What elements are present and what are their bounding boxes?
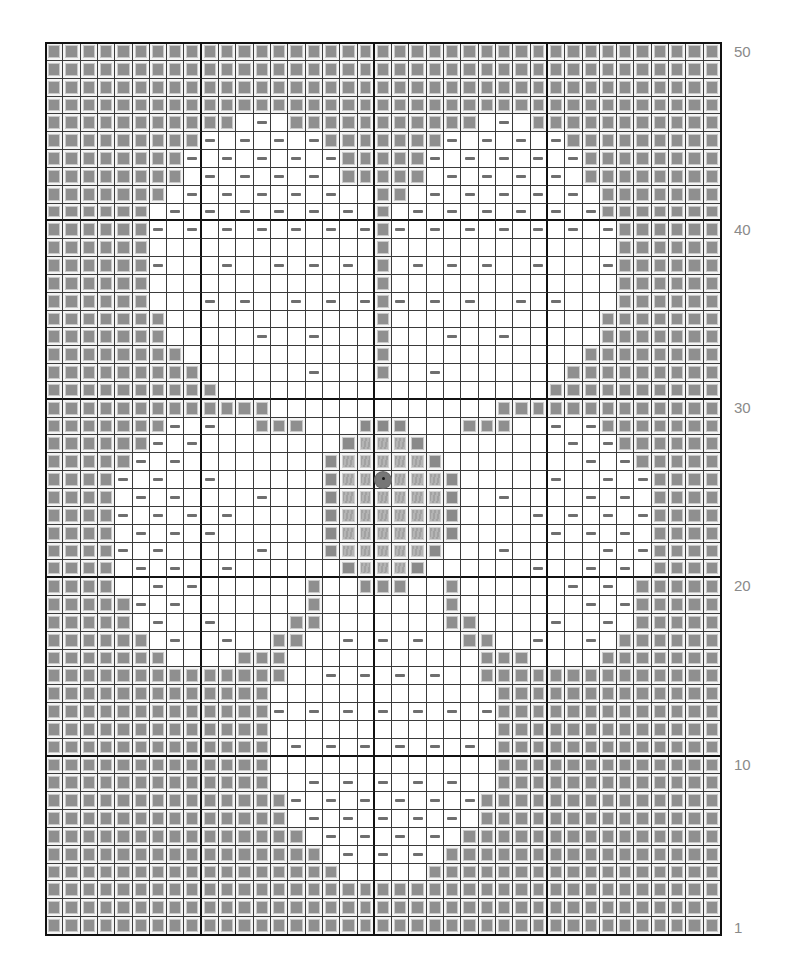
dash-stitch bbox=[150, 471, 167, 489]
white-stitch bbox=[288, 810, 305, 828]
light-stitch bbox=[427, 489, 444, 507]
white-stitch bbox=[288, 543, 305, 561]
white-stitch bbox=[254, 596, 271, 614]
white-stitch bbox=[184, 632, 201, 650]
white-stitch bbox=[202, 543, 219, 561]
gray-stitch bbox=[115, 275, 132, 293]
gray-stitch bbox=[150, 186, 167, 204]
gray-stitch bbox=[375, 150, 392, 168]
white-stitch bbox=[548, 364, 565, 382]
gray-stitch bbox=[548, 810, 565, 828]
white-stitch bbox=[306, 382, 323, 400]
white-stitch bbox=[427, 239, 444, 257]
gray-stitch bbox=[427, 61, 444, 79]
purl-dash-icon bbox=[187, 228, 197, 231]
purl-dash-icon bbox=[309, 264, 319, 267]
gray-stitch bbox=[669, 400, 686, 418]
gray-stitch bbox=[271, 79, 288, 97]
gray-stitch bbox=[704, 917, 721, 935]
gray-stitch bbox=[184, 864, 201, 882]
gray-stitch bbox=[617, 150, 634, 168]
white-stitch bbox=[392, 703, 409, 721]
gray-stitch bbox=[81, 382, 98, 400]
dash-stitch bbox=[167, 204, 184, 222]
gray-stitch bbox=[46, 471, 63, 489]
gray-stitch bbox=[409, 43, 426, 61]
white-stitch bbox=[271, 239, 288, 257]
white-stitch bbox=[513, 275, 530, 293]
gray-stitch bbox=[288, 881, 305, 899]
purl-dash-icon bbox=[413, 781, 423, 784]
gray-stitch bbox=[652, 774, 669, 792]
gray-stitch bbox=[704, 632, 721, 650]
white-stitch bbox=[513, 453, 530, 471]
gray-stitch bbox=[184, 364, 201, 382]
white-stitch bbox=[461, 721, 478, 739]
gray-stitch bbox=[617, 79, 634, 97]
gray-stitch bbox=[115, 881, 132, 899]
white-stitch bbox=[202, 632, 219, 650]
outline-stitch bbox=[444, 471, 461, 489]
white-stitch bbox=[479, 578, 496, 596]
gray-stitch bbox=[600, 792, 617, 810]
gray-stitch bbox=[617, 168, 634, 186]
gray-stitch bbox=[634, 596, 651, 614]
purl-dash-icon bbox=[465, 228, 475, 231]
gray-stitch bbox=[184, 917, 201, 935]
gray-stitch bbox=[531, 846, 548, 864]
dash-stitch bbox=[496, 221, 513, 239]
gray-stitch bbox=[513, 43, 530, 61]
gray-stitch bbox=[652, 257, 669, 275]
purl-dash-icon bbox=[465, 193, 475, 196]
purl-dash-icon bbox=[187, 193, 197, 196]
gray-stitch bbox=[236, 721, 253, 739]
dash-stitch bbox=[323, 186, 340, 204]
gray-stitch bbox=[236, 917, 253, 935]
light-stitch bbox=[375, 507, 392, 525]
gray-stitch bbox=[271, 828, 288, 846]
light-stitch bbox=[392, 471, 409, 489]
purl-dash-icon bbox=[447, 210, 457, 213]
white-stitch bbox=[323, 721, 340, 739]
white-stitch bbox=[184, 346, 201, 364]
light-stitch bbox=[358, 543, 375, 561]
gray-stitch bbox=[133, 364, 150, 382]
light-stitch bbox=[409, 471, 426, 489]
gray-stitch bbox=[686, 275, 703, 293]
purl-dash-icon bbox=[620, 496, 630, 499]
white-stitch bbox=[358, 328, 375, 346]
gray-stitch bbox=[634, 917, 651, 935]
white-stitch bbox=[271, 400, 288, 418]
white-stitch bbox=[427, 400, 444, 418]
purl-dash-icon bbox=[170, 532, 180, 535]
gray-stitch bbox=[271, 846, 288, 864]
gray-stitch bbox=[98, 418, 115, 436]
white-stitch bbox=[254, 275, 271, 293]
gray-stitch bbox=[652, 186, 669, 204]
gray-stitch bbox=[184, 774, 201, 792]
white-stitch bbox=[600, 293, 617, 311]
gray-stitch bbox=[115, 239, 132, 257]
gray-stitch bbox=[133, 899, 150, 917]
gray-stitch bbox=[288, 632, 305, 650]
white-stitch bbox=[548, 346, 565, 364]
gray-stitch bbox=[652, 79, 669, 97]
gray-stitch bbox=[444, 97, 461, 115]
gray-stitch bbox=[288, 418, 305, 436]
gray-stitch bbox=[63, 311, 80, 329]
white-stitch bbox=[600, 489, 617, 507]
gray-stitch bbox=[63, 828, 80, 846]
gray-stitch bbox=[184, 61, 201, 79]
light-stitch bbox=[392, 507, 409, 525]
gray-stitch bbox=[46, 221, 63, 239]
gray-stitch bbox=[565, 114, 582, 132]
dash-stitch bbox=[444, 168, 461, 186]
white-stitch bbox=[409, 596, 426, 614]
white-stitch bbox=[323, 382, 340, 400]
gray-stitch bbox=[98, 150, 115, 168]
white-stitch bbox=[306, 275, 323, 293]
light-stitch bbox=[358, 560, 375, 578]
gray-stitch bbox=[409, 97, 426, 115]
white-stitch bbox=[427, 382, 444, 400]
white-stitch bbox=[358, 774, 375, 792]
